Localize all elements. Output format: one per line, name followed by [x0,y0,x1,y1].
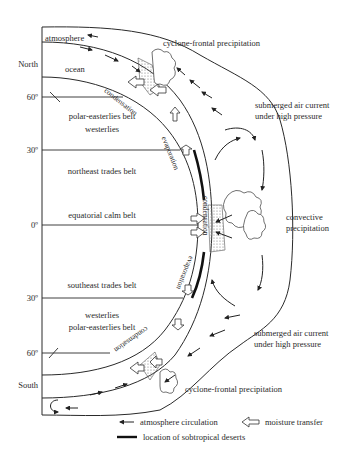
legend-deserts: location of sobtropical deserts [143,432,245,442]
label-south: South [0,380,38,390]
label-north: North [0,59,38,69]
annotation-convective-1: convective [286,212,323,222]
lat-30-south: 30º [0,293,38,303]
lat-60-north: 60º [0,92,38,102]
lat-60-south: 60º [0,348,38,358]
belt-south-westerlies: westerlies [52,310,152,320]
annotation-submerged-north-2: under high pressure [255,111,322,121]
belt-northeast-trades: northeast trades belt [52,166,152,176]
annotation-submerged-south-2: under high pressure [254,339,321,349]
annotation-submerged-north-1: submerged air current [255,100,329,110]
legend-moisture-transfer: moisture transfer [265,417,323,427]
lat-30-north: 30º [0,145,38,155]
annotation-submerged-south-1: submerged air current [254,328,328,338]
diagram-canvas [0,0,358,470]
process-condensation-equator: condensation [200,196,210,236]
lat-0: 0º [0,220,38,230]
belt-southeast-trades: southeast trades belt [52,280,152,290]
belt-equatorial: equatorial calm belt [52,210,152,220]
belt-north-westerlies: westerlies [52,124,152,134]
label-ocean: ocean [65,64,85,74]
label-atmosphere: atmosphere [45,33,84,43]
legend-moisture-arrow-icon [242,417,259,427]
legend-atmosphere-circulation: atmosphere circulation [140,417,218,427]
annotation-cyclone-south: cyclone-frontal precipitation [185,384,282,394]
annotation-convective-2: precipitation [286,223,329,233]
annotation-cyclone-north: cyclone-frontal precipitation [163,38,260,48]
